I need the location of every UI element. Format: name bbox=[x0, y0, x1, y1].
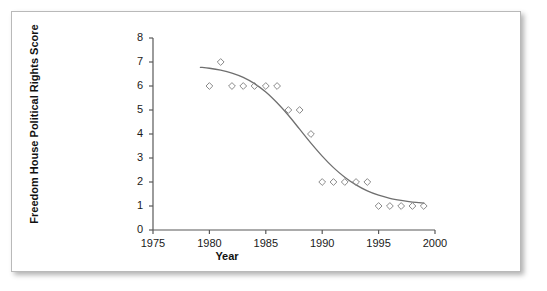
chart-plot-area: 012345678 197519801985199019952000 Freed… bbox=[12, 12, 522, 273]
y-axis-tick-label: 7 bbox=[121, 56, 143, 67]
data-point-marker bbox=[330, 179, 337, 186]
x-axis-tick-label: 1985 bbox=[246, 238, 286, 249]
data-point-marker bbox=[296, 107, 303, 114]
data-point-markers bbox=[206, 59, 427, 210]
y-axis-tick-label: 1 bbox=[121, 200, 143, 211]
data-point-marker bbox=[206, 83, 213, 90]
data-point-marker bbox=[240, 83, 247, 90]
y-axis-tick-label: 5 bbox=[121, 104, 143, 115]
chart-axes bbox=[153, 38, 435, 230]
y-axis-tick-label: 4 bbox=[121, 128, 143, 139]
data-point-marker bbox=[229, 83, 236, 90]
chart-svg-canvas bbox=[12, 12, 522, 273]
y-axis-tick-label: 2 bbox=[121, 176, 143, 187]
y-axis-title: Freedom House Political Rights Score bbox=[28, 24, 40, 224]
data-point-marker bbox=[364, 179, 371, 186]
data-point-marker bbox=[386, 203, 393, 210]
data-point-marker bbox=[398, 203, 405, 210]
y-axis-tick-label: 3 bbox=[121, 152, 143, 163]
data-point-marker bbox=[319, 179, 326, 186]
y-axis-tick-label: 0 bbox=[121, 224, 143, 235]
chart-figure-card: 012345678 197519801985199019952000 Freed… bbox=[11, 11, 521, 272]
data-point-marker bbox=[262, 83, 269, 90]
data-point-marker bbox=[274, 83, 281, 90]
x-axis-tick-label: 2000 bbox=[415, 238, 455, 249]
data-point-marker bbox=[409, 203, 416, 210]
data-point-marker bbox=[375, 203, 382, 210]
y-axis-tick-label: 8 bbox=[121, 32, 143, 43]
x-axis-tick-label: 1990 bbox=[302, 238, 342, 249]
x-axis-title: Year bbox=[12, 250, 442, 262]
x-axis-tick-label: 1980 bbox=[189, 238, 229, 249]
data-point-marker bbox=[308, 131, 315, 138]
data-point-marker bbox=[217, 59, 224, 66]
y-axis-tick-label: 6 bbox=[121, 80, 143, 91]
x-axis-tick-marks bbox=[153, 230, 435, 234]
x-axis-tick-label: 1975 bbox=[133, 238, 173, 249]
x-axis-tick-label: 1995 bbox=[359, 238, 399, 249]
